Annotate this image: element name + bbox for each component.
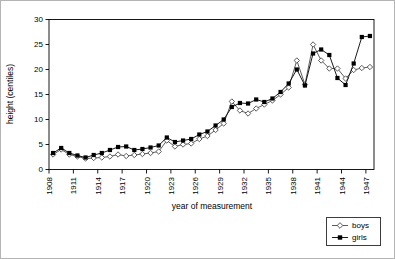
girls-point [368,34,372,38]
x-tick-label: 1923 [167,176,176,194]
girls-point [327,53,331,57]
girls-point [165,135,169,139]
x-tick-label: 1935 [264,176,273,194]
legend-item-boys: boys [331,221,378,230]
girls-point [222,117,226,121]
y-tick-label: 30 [34,15,43,24]
boys-point [294,58,299,63]
x-tick-label: 1911 [69,176,78,194]
boys-point [180,142,185,147]
x-tick-label: 1941 [313,176,322,194]
girls-point [197,132,201,136]
girls-point [303,83,307,87]
x-tick-label: 1908 [45,176,54,194]
boys-point [310,42,315,47]
boys-point [140,151,145,156]
girls-point [205,129,209,133]
girls-point [132,148,136,152]
chart-canvas: 0510152025301908191119141917192019231926… [0,0,395,259]
boys-point [148,150,153,155]
girls-point [287,81,291,85]
girls-point [148,145,152,149]
x-tick-label: 1914 [94,176,103,194]
girls-point [213,123,217,127]
legend-label-girls: girls [352,233,367,242]
boys-point [99,155,104,160]
girls-point [157,143,161,147]
legend-label-boys: boys [352,221,369,230]
girls-point [75,153,79,157]
girls-point [262,100,266,104]
girls-point [83,155,87,159]
girls-point [189,137,193,141]
girls-point [295,67,299,71]
boys-point [188,141,193,146]
girls-line [53,36,370,158]
boys-point [107,154,112,159]
boys-point [132,152,137,157]
girls-point [230,105,234,109]
y-axis-title: height (centiles) [5,64,15,124]
girls-point [360,35,364,39]
plot-frame [49,20,374,170]
girls-point [124,144,128,148]
girls-point [343,83,347,87]
girls-point [67,151,71,155]
x-tick-label: 1929 [216,176,225,194]
boys-marker-icon [331,221,349,230]
girls-marker-icon [331,233,349,242]
y-tick-label: 5 [39,140,44,149]
boys-point [115,152,120,157]
boys-point [245,111,250,116]
girls-point [92,153,96,157]
y-tick-label: 0 [39,165,44,174]
x-tick-label: 1926 [191,176,200,194]
girls-point [140,147,144,151]
boys-point [359,65,364,70]
x-axis-title: year of measurement [172,201,253,211]
girls-point [238,101,242,105]
girls-point [181,138,185,142]
x-tick-label: 1920 [143,176,152,194]
legend-item-girls: girls [331,233,378,242]
boys-point [197,136,202,141]
x-tick-label: 1938 [289,176,298,194]
boys-point [123,153,128,158]
girls-point [254,97,258,101]
x-tick-label: 1944 [338,176,347,194]
girls-point [270,96,274,100]
girls-point [51,151,55,155]
boys-point [367,64,372,69]
girls-point [100,151,104,155]
y-tick-label: 10 [34,115,43,124]
legend: boys girls [326,217,381,246]
girls-point [173,140,177,144]
girls-point [311,51,315,55]
girls-point [59,146,63,150]
y-tick-label: 15 [34,90,43,99]
girls-point [278,90,282,94]
x-tick-label: 1947 [362,176,371,194]
girls-point [108,148,112,152]
y-tick-label: 20 [34,65,43,74]
x-tick-label: 1932 [240,176,249,194]
boys-point [253,106,258,111]
girls-point [246,101,250,105]
girls-point [352,61,356,65]
girls-point [116,145,120,149]
girls-point [319,47,323,51]
x-tick-label: 1917 [118,176,127,194]
y-tick-label: 25 [34,40,43,49]
girls-point [335,76,339,80]
